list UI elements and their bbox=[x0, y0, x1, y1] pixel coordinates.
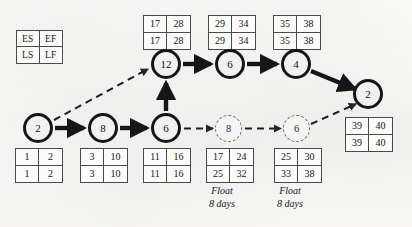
es-value: 17 bbox=[144, 16, 167, 33]
node-float-6: 6 bbox=[283, 115, 310, 142]
time-box-6-lower: 11 16 11 16 bbox=[143, 148, 191, 183]
float-caption-8: Float 8 days bbox=[187, 185, 257, 210]
ls-value: 35 bbox=[274, 33, 297, 50]
float-caption-line2: 8 days bbox=[255, 198, 325, 211]
ef-value: 30 bbox=[298, 149, 321, 166]
ls-value: 17 bbox=[144, 33, 167, 50]
es-value: 25 bbox=[275, 149, 298, 166]
node-end-2: 2 bbox=[353, 79, 383, 109]
es-value: 11 bbox=[144, 149, 167, 166]
edge-4-to-end2 bbox=[311, 71, 355, 89]
ls-value: 1 bbox=[16, 166, 39, 183]
es-value: 1 bbox=[16, 149, 39, 166]
ls-value: 11 bbox=[144, 166, 167, 183]
ls-value: 25 bbox=[207, 166, 230, 183]
node-float-8: 8 bbox=[215, 115, 242, 142]
lf-value: 16 bbox=[167, 166, 190, 183]
float-caption-line1: Float bbox=[255, 185, 325, 198]
ef-value: 34 bbox=[232, 16, 255, 33]
legend-es: ES bbox=[17, 31, 40, 47]
float-caption-line2: 8 days bbox=[187, 198, 257, 211]
float-caption-line1: Float bbox=[187, 185, 257, 198]
ef-value: 40 bbox=[369, 118, 392, 135]
ef-value: 24 bbox=[230, 149, 253, 166]
lf-value: 28 bbox=[167, 33, 190, 50]
es-value: 3 bbox=[81, 149, 104, 166]
node-4: 4 bbox=[281, 49, 311, 79]
time-box-8: 3 10 3 10 bbox=[80, 148, 128, 183]
time-box-4: 35 38 35 38 bbox=[273, 15, 321, 50]
time-box-float-6: 25 30 33 38 bbox=[274, 148, 322, 183]
ef-value: 16 bbox=[167, 149, 190, 166]
ls-value: 3 bbox=[81, 166, 104, 183]
node-start-2: 2 bbox=[23, 113, 53, 143]
node-12: 12 bbox=[151, 49, 181, 79]
time-box-6-upper: 29 34 29 34 bbox=[208, 15, 256, 50]
lf-value: 10 bbox=[104, 166, 127, 183]
time-box-float-8: 17 24 25 32 bbox=[206, 148, 254, 183]
es-value: 29 bbox=[209, 16, 232, 33]
node-6-upper: 6 bbox=[215, 49, 245, 79]
legend-lf: LF bbox=[40, 47, 63, 63]
lf-value: 40 bbox=[369, 135, 392, 152]
legend-ef: EF bbox=[40, 31, 63, 47]
time-box-start-2: 1 2 1 2 bbox=[15, 148, 63, 183]
ls-value: 39 bbox=[346, 135, 369, 152]
ef-value: 10 bbox=[104, 149, 127, 166]
node-6-lower: 6 bbox=[151, 113, 181, 143]
es-value: 39 bbox=[346, 118, 369, 135]
es-value: 17 bbox=[207, 149, 230, 166]
ef-value: 2 bbox=[39, 149, 62, 166]
ls-value: 29 bbox=[209, 33, 232, 50]
activity-time-legend: ES EF LS LF bbox=[16, 30, 63, 64]
time-box-12: 17 28 17 28 bbox=[143, 15, 191, 50]
es-value: 35 bbox=[274, 16, 297, 33]
lf-value: 2 bbox=[39, 166, 62, 183]
legend-ls: LS bbox=[17, 47, 40, 63]
network-diagram-canvas: ES EF LS LF 17 28 17 28 29 34 29 34 35 3… bbox=[0, 0, 412, 227]
lf-value: 32 bbox=[230, 166, 253, 183]
ef-value: 28 bbox=[167, 16, 190, 33]
node-8: 8 bbox=[88, 113, 118, 143]
float-caption-6: Float 8 days bbox=[255, 185, 325, 210]
lf-value: 38 bbox=[297, 33, 320, 50]
time-box-end-2: 39 40 39 40 bbox=[345, 117, 393, 152]
lf-value: 38 bbox=[298, 166, 321, 183]
lf-value: 34 bbox=[232, 33, 255, 50]
ls-value: 33 bbox=[275, 166, 298, 183]
ef-value: 38 bbox=[297, 16, 320, 33]
